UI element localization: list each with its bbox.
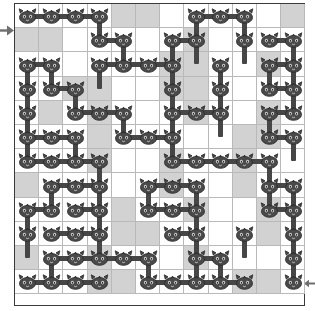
grid-cell[interactable] bbox=[136, 101, 160, 125]
cat-head-icon[interactable] bbox=[42, 129, 61, 145]
grid-cell[interactable] bbox=[209, 222, 233, 246]
grid-cell[interactable] bbox=[257, 270, 281, 294]
cat-head-icon[interactable] bbox=[18, 153, 37, 169]
grid-cell[interactable] bbox=[112, 270, 136, 294]
cat-head-icon[interactable] bbox=[90, 250, 109, 266]
cat-head-icon[interactable] bbox=[187, 105, 206, 121]
cat-head-icon[interactable] bbox=[235, 226, 254, 242]
cat-head-icon[interactable] bbox=[139, 178, 158, 194]
grid-cell[interactable] bbox=[136, 149, 160, 173]
cat-head-icon[interactable] bbox=[284, 250, 303, 266]
cat-head-icon[interactable] bbox=[66, 129, 85, 145]
cat-head-icon[interactable] bbox=[139, 250, 158, 266]
cat-head-icon[interactable] bbox=[187, 274, 206, 290]
grid-cell[interactable] bbox=[112, 4, 136, 28]
grid-cell[interactable] bbox=[136, 222, 160, 246]
cat-head-icon[interactable] bbox=[284, 274, 303, 290]
cat-head-icon[interactable] bbox=[284, 32, 303, 48]
cat-head-icon[interactable] bbox=[66, 105, 85, 121]
cat-head-icon[interactable] bbox=[90, 274, 109, 290]
cat-head-icon[interactable] bbox=[114, 105, 133, 121]
cat-head-icon[interactable] bbox=[90, 8, 109, 24]
cat-head-icon[interactable] bbox=[284, 202, 303, 218]
cat-head-icon[interactable] bbox=[163, 105, 182, 121]
cat-head-icon[interactable] bbox=[284, 57, 303, 73]
grid-cell[interactable] bbox=[112, 222, 136, 246]
cat-head-icon[interactable] bbox=[211, 8, 230, 24]
cat-head-icon[interactable] bbox=[187, 153, 206, 169]
cat-head-icon[interactable] bbox=[42, 250, 61, 266]
cat-head-icon[interactable] bbox=[139, 202, 158, 218]
grid-cell[interactable] bbox=[136, 28, 160, 52]
cat-head-icon[interactable] bbox=[139, 57, 158, 73]
cat-head-icon[interactable] bbox=[284, 178, 303, 194]
cat-head-icon[interactable] bbox=[235, 32, 254, 48]
cat-head-icon[interactable] bbox=[163, 274, 182, 290]
cat-head-icon[interactable] bbox=[90, 202, 109, 218]
grid-cell[interactable] bbox=[39, 28, 63, 52]
cat-head-icon[interactable] bbox=[90, 57, 109, 73]
cat-head-icon[interactable] bbox=[235, 274, 254, 290]
grid-cell[interactable] bbox=[233, 77, 257, 101]
grid-cell[interactable] bbox=[63, 28, 87, 52]
grid-cell[interactable] bbox=[233, 125, 257, 149]
grid-cell[interactable] bbox=[257, 246, 281, 270]
cat-head-icon[interactable] bbox=[163, 226, 182, 242]
cat-head-icon[interactable] bbox=[18, 105, 37, 121]
cat-head-icon[interactable] bbox=[66, 202, 85, 218]
cat-head-icon[interactable] bbox=[66, 226, 85, 242]
grid-cell[interactable] bbox=[112, 77, 136, 101]
grid-cell[interactable] bbox=[39, 101, 63, 125]
cat-head-icon[interactable] bbox=[42, 178, 61, 194]
cat-head-icon[interactable] bbox=[260, 32, 279, 48]
grid-cell[interactable] bbox=[209, 28, 233, 52]
cat-head-icon[interactable] bbox=[284, 129, 303, 145]
grid-cell[interactable] bbox=[136, 4, 160, 28]
cat-head-icon[interactable] bbox=[139, 274, 158, 290]
cat-head-icon[interactable] bbox=[260, 57, 279, 73]
cat-head-icon[interactable] bbox=[42, 57, 61, 73]
cat-head-icon[interactable] bbox=[42, 81, 61, 97]
cat-head-icon[interactable] bbox=[187, 226, 206, 242]
grid-cell[interactable] bbox=[257, 4, 281, 28]
cat-head-icon[interactable] bbox=[211, 57, 230, 73]
cat-head-icon[interactable] bbox=[163, 57, 182, 73]
cat-head-icon[interactable] bbox=[163, 178, 182, 194]
cat-head-icon[interactable] bbox=[42, 274, 61, 290]
cat-head-icon[interactable] bbox=[18, 226, 37, 242]
cat-head-icon[interactable] bbox=[90, 105, 109, 121]
cat-head-icon[interactable] bbox=[66, 8, 85, 24]
grid-cell[interactable] bbox=[281, 4, 305, 28]
cat-head-icon[interactable] bbox=[18, 81, 37, 97]
cat-head-icon[interactable] bbox=[90, 226, 109, 242]
cat-head-icon[interactable] bbox=[187, 8, 206, 24]
cat-head-icon[interactable] bbox=[90, 153, 109, 169]
cat-head-icon[interactable] bbox=[18, 129, 37, 145]
cat-head-icon[interactable] bbox=[18, 202, 37, 218]
cat-head-icon[interactable] bbox=[260, 129, 279, 145]
cat-head-icon[interactable] bbox=[211, 81, 230, 97]
cat-head-icon[interactable] bbox=[66, 178, 85, 194]
cat-head-icon[interactable] bbox=[163, 81, 182, 97]
grid-cell[interactable] bbox=[15, 28, 39, 52]
cat-head-icon[interactable] bbox=[284, 105, 303, 121]
puzzle-grid[interactable] bbox=[14, 3, 305, 306]
cat-head-icon[interactable] bbox=[235, 8, 254, 24]
grid-cell[interactable] bbox=[112, 149, 136, 173]
cat-head-icon[interactable] bbox=[260, 202, 279, 218]
cat-head-icon[interactable] bbox=[260, 81, 279, 97]
cat-head-icon[interactable] bbox=[187, 178, 206, 194]
cat-head-icon[interactable] bbox=[260, 105, 279, 121]
grid-cell[interactable] bbox=[233, 101, 257, 125]
cat-head-icon[interactable] bbox=[163, 202, 182, 218]
grid-cell[interactable] bbox=[184, 125, 208, 149]
cat-head-icon[interactable] bbox=[114, 57, 133, 73]
cat-head-icon[interactable] bbox=[235, 153, 254, 169]
cat-head-icon[interactable] bbox=[139, 129, 158, 145]
grid-cell[interactable] bbox=[160, 4, 184, 28]
grid-cell[interactable] bbox=[209, 198, 233, 222]
cat-head-icon[interactable] bbox=[163, 153, 182, 169]
cat-head-icon[interactable] bbox=[211, 274, 230, 290]
grid-cell[interactable] bbox=[233, 173, 257, 197]
cat-head-icon[interactable] bbox=[187, 32, 206, 48]
